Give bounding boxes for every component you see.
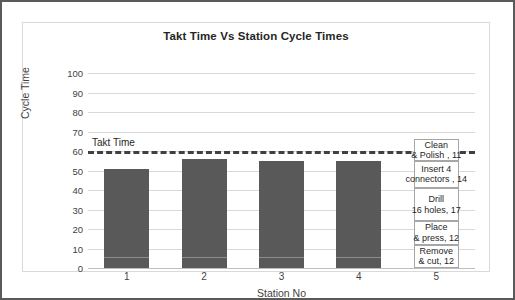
data-label-line-2: 16 holes, 17 <box>412 205 461 216</box>
x-axis-tick-label: 4 <box>356 271 362 282</box>
gridline <box>88 268 475 269</box>
data-label-line-1: Clean <box>425 140 449 151</box>
bar <box>336 161 381 268</box>
station5-data-label: Clean& Polish , 11 <box>414 139 459 160</box>
station5-data-label: Place& press, 12 <box>414 221 459 244</box>
gridline <box>88 93 475 94</box>
bar-segment-divider <box>182 257 227 258</box>
y-axis-tick-labels: 0102030405060708090100 <box>51 73 83 268</box>
y-axis-tick-label: 40 <box>53 185 83 196</box>
x-axis-tick-label: 3 <box>279 271 285 282</box>
y-axis-tick-label: 100 <box>53 68 83 79</box>
data-label-line-2: & Polish , 11 <box>411 150 461 161</box>
data-label-line-2: & cut, 12 <box>419 256 455 267</box>
bar-segment-divider <box>104 257 149 258</box>
chart-panel: Takt Time Vs Station Cycle Times Cycle T… <box>22 22 490 272</box>
station5-data-label: Drill16 holes, 17 <box>414 188 459 221</box>
data-label-line-1: Insert 4 <box>421 164 451 175</box>
x-axis-tick-label: 5 <box>434 271 440 282</box>
station5-data-label: Remove& cut, 12 <box>414 245 459 268</box>
plot-area: Takt Time Clean& Polish , 11Insert 4conn… <box>88 73 475 268</box>
bar <box>182 159 227 268</box>
gridline <box>88 132 475 133</box>
y-axis-title: Cycle Time <box>19 67 31 119</box>
station5-data-label: Insert 4connectors , 14 <box>414 161 459 188</box>
data-label-line-2: connectors , 14 <box>406 174 468 185</box>
data-label-line-1: Drill <box>429 194 445 205</box>
data-label-line-1: Remove <box>420 246 454 257</box>
bar <box>104 169 149 268</box>
y-axis-tick-label: 90 <box>53 87 83 98</box>
gridline <box>88 112 475 113</box>
takt-time-label: Takt Time <box>92 137 135 148</box>
y-axis-tick-label: 0 <box>53 263 83 274</box>
x-axis-tick-labels: 12345 <box>88 271 475 287</box>
station5-data-label-stack: Clean& Polish , 11Insert 4connectors , 1… <box>414 139 459 268</box>
bar <box>259 161 304 268</box>
data-label-line-1: Place <box>425 222 448 233</box>
x-axis-tick-label: 2 <box>201 271 207 282</box>
x-axis-title: Station No <box>88 287 475 299</box>
chart-title: Takt Time Vs Station Cycle Times <box>23 30 489 42</box>
y-axis-tick-label: 80 <box>53 107 83 118</box>
bar-segment-divider <box>259 257 304 258</box>
y-axis-tick-label: 60 <box>53 146 83 157</box>
chart-screenshot: Takt Time Vs Station Cycle Times Cycle T… <box>0 0 515 300</box>
gridline <box>88 73 475 74</box>
y-axis-tick-label: 30 <box>53 204 83 215</box>
y-axis-tick-label: 70 <box>53 126 83 137</box>
y-axis-tick-label: 20 <box>53 224 83 235</box>
bar-segment-divider <box>336 257 381 258</box>
y-axis-tick-label: 10 <box>53 243 83 254</box>
data-label-line-2: & press, 12 <box>414 233 460 244</box>
x-axis-tick-label: 1 <box>124 271 130 282</box>
y-axis-tick-label: 50 <box>53 165 83 176</box>
